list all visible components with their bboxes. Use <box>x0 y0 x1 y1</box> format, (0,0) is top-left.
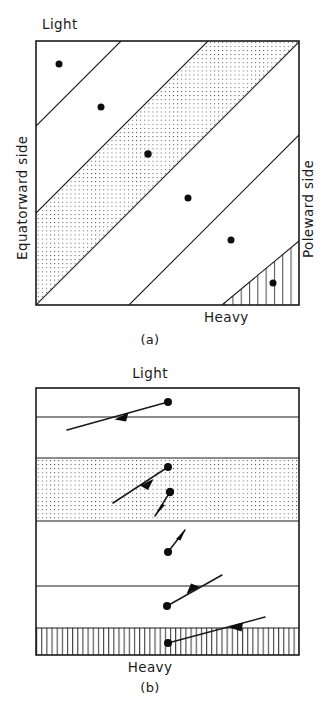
panel-a-station-dot <box>270 280 277 287</box>
panel-b-top-label: Light <box>132 365 168 381</box>
panel-a-plot-area <box>36 41 299 305</box>
panel-b-station-dot <box>164 639 172 647</box>
panel-b-plot-area <box>36 388 299 655</box>
panel-b-bottom-label: Heavy <box>128 659 173 675</box>
panel-a-station-dot <box>144 150 151 157</box>
panel-b-station-dot <box>163 602 171 610</box>
panel-a-caption: (a) <box>140 332 159 347</box>
panel-a-station-dot <box>228 237 235 244</box>
panel-a-station-dot <box>185 195 192 202</box>
panel-b: Light <box>36 365 299 695</box>
panel-b-station-dot <box>164 463 172 471</box>
panel-a-bottom-label: Heavy <box>204 309 249 325</box>
panel-b-caption: (b) <box>140 680 159 695</box>
panel-b-station-dot <box>164 398 172 406</box>
panel-a: Light Equatorward side Poleward side <box>14 16 316 347</box>
panel-b-station-dot <box>166 488 174 496</box>
panel-a-station-dot <box>56 61 63 68</box>
panel-a-left-label: Equatorward side <box>14 135 30 260</box>
figure-canvas: Light Equatorward side Poleward side <box>0 0 326 716</box>
panel-b-station-dot <box>164 548 172 556</box>
panel-a-station-dot <box>98 104 105 111</box>
panel-a-right-label: Poleward side <box>300 160 316 258</box>
scientific-figure: Light Equatorward side Poleward side <box>0 0 326 716</box>
panel-a-top-label: Light <box>42 16 78 32</box>
